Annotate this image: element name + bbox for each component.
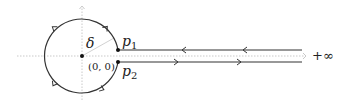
p1-point xyxy=(116,48,120,52)
origin-point xyxy=(80,54,84,58)
delta-label: δ xyxy=(86,35,94,51)
infinity-label: +∞ xyxy=(312,48,334,63)
arrow-icon xyxy=(51,24,58,31)
p2-label: p2 xyxy=(122,63,137,81)
p1-label: p1 xyxy=(122,33,137,51)
arrow-icon xyxy=(50,81,57,87)
arrow-icon xyxy=(99,85,105,92)
p2-point xyxy=(116,60,120,64)
circle-arrows xyxy=(50,24,109,92)
keyhole-contour-diagram: δ p1 p2 (0, 0) +∞ xyxy=(0,0,350,103)
origin-label: (0, 0) xyxy=(88,61,115,72)
